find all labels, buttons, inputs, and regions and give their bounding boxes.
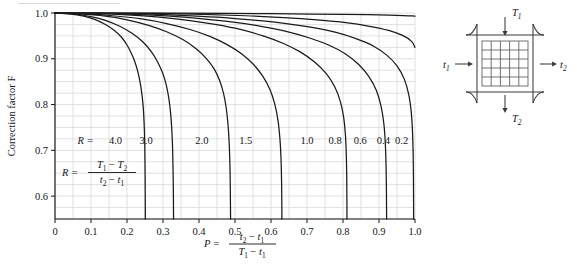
x-tick-label: 0.1 bbox=[84, 226, 97, 237]
curve-label: 1.0 bbox=[300, 135, 313, 146]
figure-root: 00.10.20.30.40.50.60.70.80.91.0 0.60.70.… bbox=[0, 0, 577, 266]
annotation-R-lhs: R = bbox=[61, 167, 78, 178]
curve-label: 2.0 bbox=[195, 135, 208, 146]
curve-label: 1.5 bbox=[239, 135, 252, 146]
curve-label: 0.6 bbox=[354, 135, 367, 146]
y-tick-label: 0.8 bbox=[35, 99, 48, 110]
curve-label: 0.4 bbox=[377, 135, 391, 146]
y-tick-label: 0.7 bbox=[35, 145, 48, 156]
annotation-P-lhs: P = bbox=[203, 238, 220, 249]
grid-lines bbox=[55, 13, 415, 219]
curve-label: R = bbox=[77, 135, 94, 146]
y-tick-label: 0.9 bbox=[35, 53, 48, 64]
curve-label: 4.0 bbox=[109, 135, 122, 146]
curve-label: 0.2 bbox=[395, 135, 408, 146]
x-tick-label: 1.0 bbox=[408, 226, 421, 237]
x-tick-label: 0.3 bbox=[156, 226, 169, 237]
x-tick-label: 0.7 bbox=[300, 226, 313, 237]
y-axis-title: Correction factor F bbox=[6, 76, 17, 157]
lmtd-correction-factor-figure: 00.10.20.30.40.50.60.70.80.91.0 0.60.70.… bbox=[0, 0, 577, 266]
x-tick-label: 0.9 bbox=[372, 226, 385, 237]
y-tick-label: 0.6 bbox=[35, 191, 48, 202]
x-tick-label: 0.6 bbox=[264, 226, 277, 237]
y-tick-label: 1.0 bbox=[35, 8, 48, 19]
curve-label: 3.0 bbox=[140, 135, 153, 146]
curve-label: 0.8 bbox=[329, 135, 342, 146]
x-tick-label: 0.2 bbox=[120, 226, 133, 237]
x-tick-label: 0.8 bbox=[336, 226, 349, 237]
x-tick-label: 0.4 bbox=[192, 226, 206, 237]
x-tick-label: 0 bbox=[52, 226, 57, 237]
